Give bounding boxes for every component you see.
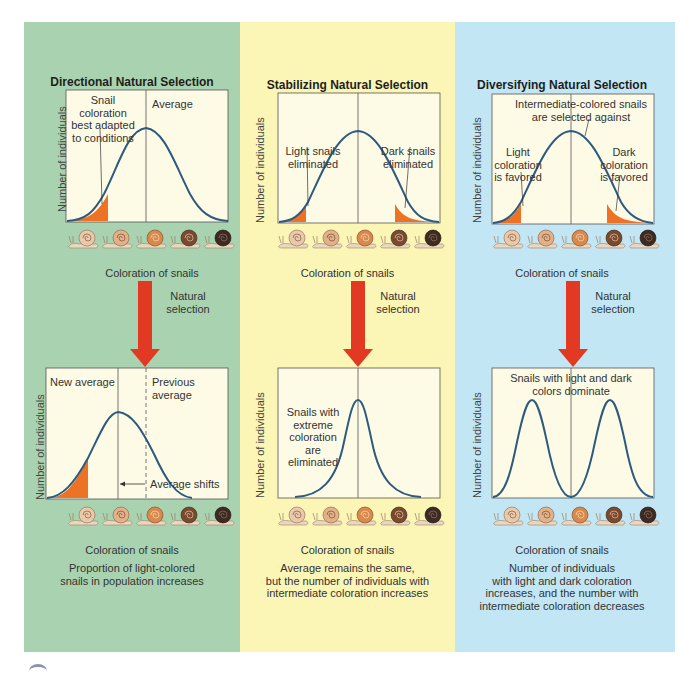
y-axis-label-bottom: Number of individuals [34,394,46,500]
snail-icon-dark-mid [168,225,202,251]
average-shifts-label: Average shifts [150,478,220,491]
snail-icon-dark [202,225,236,251]
caption: Number of individuals with light and dar… [449,562,675,612]
x-axis-label: Coloration of snails [449,267,675,279]
arrow-head [343,349,373,367]
y-axis-label-bottom: Number of individuals [471,392,483,498]
arrow-label: Natural selection [158,290,218,315]
snail-row-bottom [276,502,446,528]
y-axis-label: Number of individuals [471,117,483,223]
arrow-shaft [138,281,152,349]
caption: Proportion of light-colored snails in po… [24,562,240,587]
snail-icon-light-mid [100,225,134,251]
average-label: Average [152,98,193,111]
x-axis-label-bottom: Coloration of snails [24,544,240,556]
arrow-label: Natural selection [368,290,428,315]
panel-diversifying-selection: Diversifying Natural Selection Number of… [455,22,675,652]
snail-row-top [276,225,446,251]
dark-snails-eliminated-label: Dark snails eliminated [377,145,439,170]
arrow-shaft [566,281,580,349]
snail-row-top [66,225,236,251]
x-axis-label-bottom: Coloration of snails [240,544,455,556]
x-axis-label-bottom: Coloration of snails [449,544,675,556]
caption: Average remains the same, but the number… [240,562,455,600]
intermediate-selected-against-label: Intermediate-colored snails are selected… [511,98,651,123]
x-axis-label: Coloration of snails [240,267,455,279]
y-axis-label: Number of individuals [254,117,266,223]
panel-stabilizing-selection: Stabilizing Natural Selection Number of … [240,22,455,652]
arrow-label: Natural selection [583,290,643,315]
arrow-shaft [351,281,365,349]
dark-favored-label: Dark coloration is favored [598,146,650,184]
light-snails-eliminated-label: Light snails eliminated [282,145,344,170]
light-favored-label: Light coloration is favored [493,146,543,184]
panel-directional-selection: Directional Natural Selection Number of … [24,22,240,652]
y-axis-label-bottom: Number of individuals [254,392,266,498]
arrow-head [130,349,160,367]
new-average-label: New average [50,376,115,389]
arrow-head [558,349,588,367]
snail-row-top [491,225,661,251]
page-corner-mark [29,664,47,675]
y-axis-label: Number of individuals [56,106,68,212]
snail-row-bottom [66,502,236,528]
snail-row-bottom [491,502,661,528]
previous-average-label: Previous average [152,376,195,401]
x-axis-label: Coloration of snails [64,267,240,279]
snail-icon-medium [134,225,168,251]
extreme-eliminated-label: Snails with extreme coloration are elimi… [280,406,346,469]
light-dark-dominate-label: Snails with light and dark colors domina… [501,372,641,397]
annotation-best-adapted: Snail coloration best adapted to conditi… [68,94,138,144]
stabilizing-diagram [240,22,455,652]
snail-icon-light [66,225,100,251]
